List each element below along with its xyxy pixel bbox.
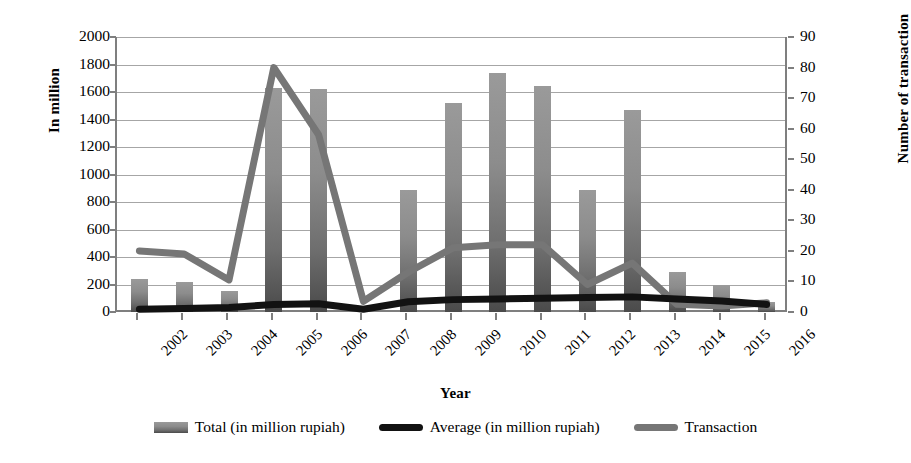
y-axis-left-tick-label: 600	[0, 221, 110, 237]
x-axis-tick-label: 2015	[741, 326, 774, 359]
x-axis-tick-label: 2014	[696, 326, 729, 359]
x-axis-tick-mark	[360, 313, 362, 320]
y-axis-right-tick-label: 80	[800, 59, 816, 75]
y-axis-right-tick-label: 40	[800, 181, 816, 197]
x-axis-tick-mark	[495, 313, 497, 320]
x-axis-tick-label: 2004	[248, 326, 281, 359]
y-axis-left-tick-label: 1600	[0, 83, 110, 99]
x-axis-tick-label: 2002	[158, 326, 191, 359]
x-axis-tick-label: 2005	[293, 326, 326, 359]
x-axis-tick-mark	[584, 313, 586, 320]
y-axis-left-tick-label: 1400	[0, 111, 110, 127]
x-axis-tick-mark	[629, 313, 631, 320]
x-axis-tick-label: 2006	[337, 326, 370, 359]
x-axis-tick-label: 2012	[606, 326, 639, 359]
x-axis-tick-mark	[540, 313, 542, 320]
chart-figure: In million Number of transaction 2000180…	[0, 0, 911, 463]
y-axis-left-tick-label: 2000	[0, 28, 110, 44]
line-series-layer	[117, 37, 789, 312]
x-axis-tick-label: 2013	[651, 326, 684, 359]
x-axis-tick-mark	[764, 313, 766, 320]
y-axis-left-tick-label: 1800	[0, 56, 110, 72]
legend-item[interactable]: Transaction	[634, 418, 758, 436]
y-axis-right-tick-label: 30	[800, 211, 816, 227]
y-axis-right-tick-label: 60	[800, 120, 816, 136]
legend-label: Average (in million rupiah)	[430, 418, 600, 436]
x-axis-tick-label: 2010	[517, 326, 550, 359]
y-axis-left-tick-label: 1200	[0, 138, 110, 154]
x-axis-tick-mark	[316, 313, 318, 320]
x-axis-tick-label: 2011	[561, 326, 594, 359]
y-axis-left-tick-label: 0	[0, 303, 110, 319]
legend-swatch-line-transaction	[634, 424, 678, 431]
line-transaction	[139, 68, 766, 306]
chart-legend: Total (in million rupiah)Average (in mil…	[0, 418, 911, 436]
x-axis-tick-label: 2003	[203, 326, 236, 359]
x-axis-tick-mark	[181, 313, 183, 320]
y-axis-right-title: Number of transaction	[895, 0, 911, 199]
x-axis-tick-mark	[226, 313, 228, 320]
legend-label: Total (in million rupiah)	[195, 418, 345, 436]
x-axis-title: Year	[0, 385, 911, 402]
legend-swatch-line-average	[379, 424, 423, 431]
x-axis-tick-mark	[719, 313, 721, 320]
y-axis-left-tick-label: 1000	[0, 166, 110, 182]
x-axis-tick-label: 2007	[382, 326, 415, 359]
legend-swatch-bar	[154, 422, 188, 433]
y-axis-right-tick-label: 90	[800, 28, 816, 44]
y-axis-right-tick-label: 10	[800, 272, 816, 288]
plot-area	[115, 37, 787, 312]
y-axis-left-tick-label: 200	[0, 276, 110, 292]
legend-label: Transaction	[685, 418, 758, 436]
x-axis-tick-label: 2008	[427, 326, 460, 359]
y-axis-right-tick-label: 50	[800, 150, 816, 166]
legend-item[interactable]: Average (in million rupiah)	[379, 418, 600, 436]
x-axis-tick-label: 2009	[472, 326, 505, 359]
y-axis-left-tick-label: 400	[0, 248, 110, 264]
x-axis-tick-mark	[271, 313, 273, 320]
x-axis-tick-mark	[450, 313, 452, 320]
y-axis-right-tick-label: 0	[800, 303, 808, 319]
legend-item[interactable]: Total (in million rupiah)	[154, 418, 345, 436]
x-axis-tick-mark	[136, 313, 138, 320]
y-axis-right-tick-label: 70	[800, 89, 816, 105]
y-axis-right-tick-label: 20	[800, 242, 816, 258]
x-axis-tick-label: 2016	[785, 326, 818, 359]
y-axis-left-tick-label: 800	[0, 193, 110, 209]
x-axis-tick-mark	[405, 313, 407, 320]
x-axis-tick-mark	[674, 313, 676, 320]
